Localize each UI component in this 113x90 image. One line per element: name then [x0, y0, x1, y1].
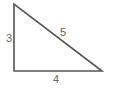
- right-triangle-diagram: 3 5 4: [0, 0, 113, 90]
- side-label-vertical: 3: [6, 32, 12, 44]
- side-label-hypotenuse: 5: [60, 26, 66, 38]
- side-label-base: 4: [53, 73, 59, 85]
- triangle-shape: [14, 4, 102, 71]
